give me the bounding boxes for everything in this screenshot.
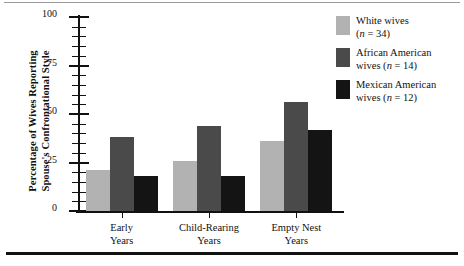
bar [110, 137, 134, 211]
y-tick-major: 75 [69, 65, 89, 67]
y-tick-minor [72, 75, 86, 76]
bar [221, 176, 245, 211]
legend-label: Mexican Americanwives (n = 12) [356, 79, 436, 104]
legend-label: White wives(n = 34) [356, 15, 409, 40]
y-tick-minor [72, 201, 86, 202]
x-tick [209, 211, 210, 218]
legend-n-symbol: n [387, 60, 392, 71]
legend-label-line: (n = 34) [356, 28, 409, 41]
y-tick-minor [72, 133, 86, 134]
legend: White wives(n = 34)African Americanwives… [336, 15, 464, 111]
x-category-label: Empty NestYears [236, 221, 356, 247]
y-tick-label: 25 [31, 154, 57, 165]
y-tick-minor [72, 192, 86, 193]
y-tick-minor [72, 36, 86, 37]
y-tick-major: 50 [69, 113, 89, 115]
legend-item: Mexican Americanwives (n = 12) [336, 79, 464, 104]
legend-label-line: African American [356, 47, 432, 60]
y-tick-minor [72, 124, 86, 125]
legend-swatch [336, 48, 350, 67]
y-tick-minor [72, 153, 86, 154]
legend-label-line: White wives [356, 15, 409, 28]
y-tick-label: 100 [31, 8, 57, 19]
legend-item: African Americanwives (n = 14) [336, 47, 464, 72]
y-tick-label: 50 [31, 105, 57, 116]
top-divider [4, 2, 460, 3]
y-tick-minor [72, 104, 86, 105]
bar [284, 102, 308, 211]
legend-label-line: wives (n = 14) [356, 60, 432, 73]
legend-label-line: Mexican American [356, 79, 436, 92]
y-tick-label: 75 [31, 57, 57, 68]
legend-item: White wives(n = 34) [336, 15, 464, 40]
bar [197, 126, 221, 211]
x-axis-line [76, 211, 344, 213]
bottom-divider [6, 252, 458, 255]
y-tick-minor [72, 143, 86, 144]
legend-swatch [336, 80, 350, 99]
x-category-label-line: Empty Nest [236, 221, 356, 234]
y-tick-label: 0 [31, 202, 57, 213]
y-tick-minor [72, 172, 86, 173]
bar [134, 176, 158, 211]
legend-n-symbol: n [387, 92, 392, 103]
y-tick-minor [72, 182, 86, 183]
y-axis-title-line2: Spouse's Confrontational Style [39, 18, 52, 224]
x-tick [296, 211, 297, 218]
bar [86, 170, 110, 211]
legend-swatch [336, 16, 350, 35]
y-axis-title: Percentage of Wives Reporting Spouse's C… [26, 18, 52, 224]
legend-label: African Americanwives (n = 14) [356, 47, 432, 72]
y-tick-minor [72, 95, 86, 96]
x-category-label-line: Years [236, 234, 356, 247]
x-tick [122, 211, 123, 218]
bar [308, 130, 332, 211]
y-tick-major: 25 [69, 162, 89, 164]
y-tick-minor [72, 27, 86, 28]
plot-area: 0255075100 EarlyYearsChild-RearingYearsE… [78, 17, 340, 211]
y-tick-minor [72, 46, 86, 47]
legend-n-symbol: n [360, 28, 365, 39]
y-tick-minor [72, 56, 86, 57]
y-axis-title-line1: Percentage of Wives Reporting [26, 18, 39, 224]
bar-chart-figure: Percentage of Wives Reporting Spouse's C… [0, 0, 464, 266]
bar [260, 141, 284, 211]
y-tick-minor [72, 85, 86, 86]
y-tick-major: 100 [69, 16, 89, 18]
legend-label-line: wives (n = 12) [356, 92, 436, 105]
bar [173, 161, 197, 211]
